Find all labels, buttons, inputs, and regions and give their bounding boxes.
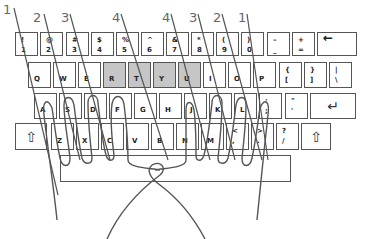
key-label: O: [234, 75, 240, 83]
key-digit: _: [273, 46, 277, 54]
key-label: Y: [159, 75, 164, 83]
key-enter: ↵: [310, 93, 356, 119]
key-g: G: [134, 93, 157, 119]
key-symbol: {: [285, 66, 290, 74]
key-digit: =: [298, 46, 304, 54]
key-label: J: [190, 106, 193, 114]
key-digit: 8: [197, 46, 202, 54]
key-label: G: [140, 106, 146, 114]
key-symbol: ': [291, 107, 293, 115]
key-quote: "': [285, 93, 308, 119]
key-digit: 2: [46, 46, 51, 54]
enter-arrow-icon: ↵: [311, 94, 355, 118]
key-label: K: [215, 106, 220, 114]
key-digit: 5: [122, 46, 127, 54]
key-y: Y: [153, 62, 176, 88]
key-slash: ?/: [276, 123, 299, 150]
key-label: L: [240, 106, 244, 114]
key-symbol: –: [273, 36, 277, 44]
key-right-bracket: }]: [304, 62, 327, 88]
key-symbol: %: [122, 36, 129, 44]
key-symbol: &: [172, 36, 178, 44]
key-symbol: <: [232, 127, 238, 135]
key-z: Z: [51, 123, 74, 150]
key-symbol: :: [265, 97, 268, 105]
key-label: D: [90, 106, 96, 114]
key-symbol: >: [257, 127, 263, 135]
key-label: R: [109, 75, 114, 83]
key-l: L: [234, 93, 257, 119]
key-o: O: [228, 62, 251, 88]
key-6: ^6: [141, 32, 164, 56]
key-8: *8: [191, 32, 214, 56]
key-equals: +=: [292, 32, 315, 56]
key-symbol: ^: [147, 36, 153, 44]
key-c: C: [101, 123, 124, 150]
key-backslash: |\: [329, 62, 352, 88]
key-f: F: [109, 93, 132, 119]
key-symbol: ,: [232, 137, 235, 145]
key-minus: –_: [267, 32, 290, 56]
shift-arrow-icon: ⇧: [302, 124, 330, 149]
key-9: (9: [216, 32, 239, 56]
key-q: Q: [28, 62, 51, 88]
key-label: C: [107, 137, 112, 145]
key-left-bracket: {[: [279, 62, 302, 88]
key-semicolon: :;: [259, 93, 282, 119]
key-symbol: +: [298, 36, 304, 44]
key-symbol: /: [282, 137, 285, 145]
finger-label-right-pinky: 1: [238, 10, 246, 25]
key-digit: 0: [247, 46, 252, 54]
key-space: [60, 155, 291, 182]
key-w: W: [53, 62, 76, 88]
key-symbol: (: [222, 36, 225, 44]
finger-label-right-ring: 2: [213, 10, 221, 25]
key-digit: 3: [72, 46, 77, 54]
key-7: &7: [166, 32, 189, 56]
key-symbol: ]: [310, 76, 313, 84]
key-symbol: }: [310, 66, 315, 74]
key-5: %5: [116, 32, 139, 56]
key-label: I: [209, 75, 212, 83]
key-symbol: *: [197, 36, 201, 44]
key-label: E: [84, 75, 89, 83]
key-b: B: [151, 123, 174, 150]
key-0: )0: [241, 32, 264, 56]
key-symbol: |: [335, 66, 338, 74]
key-symbol: ;: [265, 107, 268, 115]
shift-arrow-icon: ⇧: [16, 124, 46, 149]
key-symbol: $: [97, 36, 102, 44]
key-label: F: [115, 106, 120, 114]
key-t: T: [128, 62, 151, 88]
key-h: H: [159, 93, 182, 119]
key-symbol: @: [46, 36, 53, 44]
key-x: X: [76, 123, 99, 150]
key-v: V: [126, 123, 149, 150]
key-label: N: [182, 137, 188, 145]
key-label: B: [157, 137, 162, 145]
key-4: $4: [91, 32, 114, 56]
key-label: Q: [34, 75, 40, 83]
finger-label-left-index: 4: [112, 10, 120, 25]
key-label: Z: [57, 137, 62, 145]
key-comma: <,: [226, 123, 249, 150]
key-symbol: \: [335, 76, 338, 84]
key-symbol: ": [291, 97, 295, 105]
key-r: R: [103, 62, 126, 88]
key-label: X: [82, 137, 87, 145]
key-symbol: .: [257, 137, 260, 145]
finger-label-right-middle: 3: [189, 10, 197, 25]
key-digit: 7: [172, 46, 177, 54]
key-symbol: [: [285, 76, 288, 84]
key-1: !1: [15, 32, 38, 56]
key-symbol: #: [72, 36, 78, 44]
key-n: N: [176, 123, 199, 150]
key-label: W: [59, 75, 67, 83]
key-digit: 4: [97, 46, 102, 54]
finger-label-left-pinky: 1: [3, 2, 11, 17]
key-label: M: [207, 137, 214, 145]
key-i: I: [203, 62, 226, 88]
key-2: @2: [40, 32, 63, 56]
finger-label-left-ring: 2: [33, 10, 41, 25]
key-j: J: [184, 93, 207, 119]
